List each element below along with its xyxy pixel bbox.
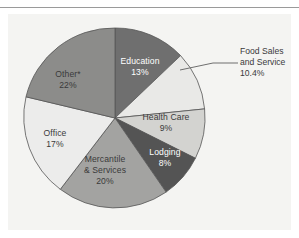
pie-chart-svg: Education 13% Other* 22% Office 17% Merc…	[8, 14, 291, 230]
slice-label-mercantile-line1: Mercantile	[85, 154, 126, 164]
chart-panel: Education 13% Other* 22% Office 17% Merc…	[8, 14, 291, 230]
slice-value-education: 13%	[131, 67, 149, 77]
slice-label-office: Office	[44, 128, 67, 138]
slice-label-lodging: Lodging	[149, 147, 180, 157]
callout-line-3: 10.4%	[240, 68, 265, 78]
slice-label-education: Education	[120, 56, 159, 66]
slice-label-other: Other*	[55, 69, 81, 79]
slice-label-health-care: Health Care	[143, 112, 190, 122]
slice-label-mercantile-line2: & Services	[84, 165, 126, 175]
callout-line-2: and Service	[240, 57, 286, 67]
slice-value-lodging: 8%	[159, 158, 172, 168]
slice-value-office: 17%	[46, 139, 64, 149]
slice-value-other: 22%	[59, 80, 77, 90]
pie-chart: Education 13% Other* 22% Office 17% Merc…	[8, 14, 291, 230]
slice-value-health-care: 9%	[160, 123, 173, 133]
top-horizontal-rule	[0, 7, 299, 8]
slice-value-mercantile: 20%	[96, 176, 114, 186]
callout-line-1: Food Sales	[240, 46, 283, 56]
